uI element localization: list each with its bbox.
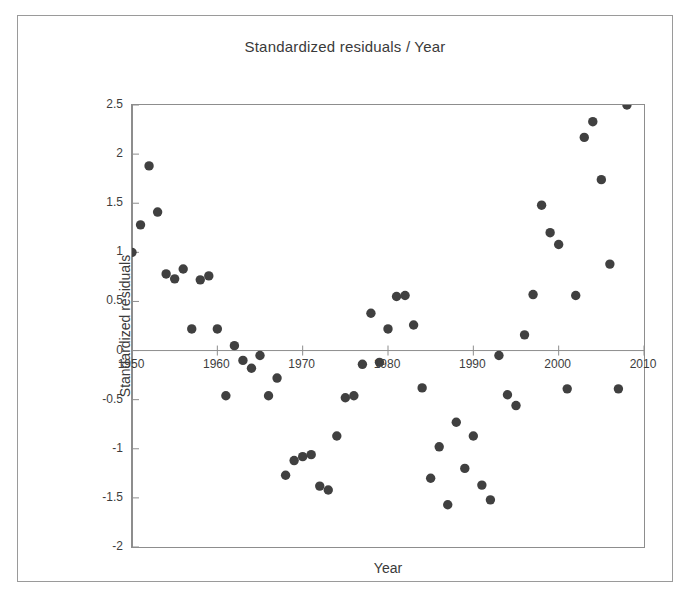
y-tick-label: 0 (89, 343, 123, 357)
x-tick-label: 1980 (365, 357, 409, 371)
data-point (255, 351, 264, 360)
data-point (554, 240, 563, 249)
y-tick-label: 2.5 (89, 97, 123, 111)
x-tick-label: 1990 (450, 357, 494, 371)
data-point (132, 248, 137, 257)
data-point (366, 309, 375, 318)
x-tick-label: 1950 (109, 357, 153, 371)
data-point (161, 269, 170, 278)
y-tick-label: 0.5 (89, 293, 123, 307)
data-point (597, 175, 606, 184)
y-axis-title-wrapper: Standardized residuals (56, 104, 80, 548)
data-point (341, 393, 350, 402)
data-point (264, 391, 273, 400)
y-tick-label: -1 (89, 441, 123, 455)
data-point (460, 464, 469, 473)
data-point (136, 220, 145, 229)
data-point (307, 450, 316, 459)
data-point (170, 274, 179, 283)
data-point (238, 356, 247, 365)
data-point (443, 500, 452, 509)
data-point (196, 275, 205, 284)
figure-frame: Standardized residuals / Year Standardiz… (17, 15, 673, 582)
data-point (537, 200, 546, 209)
data-point (528, 290, 537, 299)
data-point (221, 391, 230, 400)
data-point (605, 259, 614, 268)
data-point (204, 271, 213, 280)
y-tick-label: -0.5 (89, 392, 123, 406)
chart-page: Standardized residuals / Year Standardiz… (0, 0, 695, 609)
data-point (580, 133, 589, 142)
data-point (477, 480, 486, 489)
x-tick-label: 2010 (621, 357, 665, 371)
data-point (511, 401, 520, 410)
data-point (417, 383, 426, 392)
data-point (324, 485, 333, 494)
data-point (298, 452, 307, 461)
data-point (230, 341, 239, 350)
data-point (383, 324, 392, 333)
chart-title: Standardized residuals / Year (18, 38, 672, 55)
data-point (503, 390, 512, 399)
data-point (392, 292, 401, 301)
data-point (400, 291, 409, 300)
scatter-plot-svg (132, 105, 644, 547)
y-tick-label: -1.5 (89, 490, 123, 504)
data-point (144, 161, 153, 170)
data-point (187, 324, 196, 333)
data-point (289, 456, 298, 465)
x-tick-label: 1960 (194, 357, 238, 371)
data-point (571, 291, 580, 300)
x-tick-label: 1970 (280, 357, 324, 371)
data-point (614, 384, 623, 393)
plot-area (131, 104, 645, 548)
data-point (272, 373, 281, 382)
data-point (315, 481, 324, 490)
y-tick-label: 1 (89, 244, 123, 258)
data-point (409, 320, 418, 329)
data-point (545, 228, 554, 237)
data-point (281, 471, 290, 480)
data-point (426, 474, 435, 483)
data-point (486, 495, 495, 504)
y-tick-label: -2 (89, 539, 123, 553)
data-point (588, 117, 597, 126)
data-point (213, 324, 222, 333)
data-point (153, 207, 162, 216)
data-point (452, 418, 461, 427)
data-point (179, 264, 188, 273)
y-tick-label: 2 (89, 146, 123, 160)
x-axis-title: Year (131, 560, 645, 576)
data-point (435, 442, 444, 451)
data-point (247, 364, 256, 373)
y-tick-label: 1.5 (89, 195, 123, 209)
x-tick-label: 2000 (536, 357, 580, 371)
data-point (349, 391, 358, 400)
data-point (563, 384, 572, 393)
data-point (622, 105, 631, 110)
data-point (520, 330, 529, 339)
data-point (332, 431, 341, 440)
data-point (494, 351, 503, 360)
data-point (469, 431, 478, 440)
data-points (132, 105, 632, 509)
